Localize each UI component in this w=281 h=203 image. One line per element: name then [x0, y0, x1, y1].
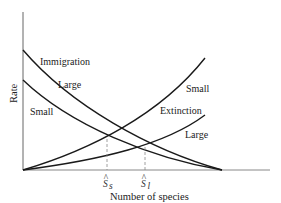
svg-text:S: S	[103, 179, 108, 189]
extinction-label: Extinction	[160, 105, 202, 116]
y-axis-label: Rate	[8, 83, 19, 103]
s-hat-large-label: ^ S l	[141, 173, 151, 191]
s-hat-small-label: ^ S s	[103, 173, 113, 191]
svg-text:l: l	[148, 181, 151, 191]
extinction-small-label: Small	[186, 83, 210, 94]
immigration-small-label: Small	[30, 106, 54, 117]
immigration-label: Immigration	[40, 56, 90, 67]
svg-text:S: S	[141, 179, 146, 189]
x-axis-label: Number of species	[110, 191, 189, 202]
svg-text:s: s	[109, 181, 113, 191]
extinction-large-label: Large	[185, 129, 209, 140]
island-biogeography-diagram: Immigration Large Small Small Extinction…	[0, 0, 281, 203]
immigration-large-label: Large	[58, 79, 82, 90]
